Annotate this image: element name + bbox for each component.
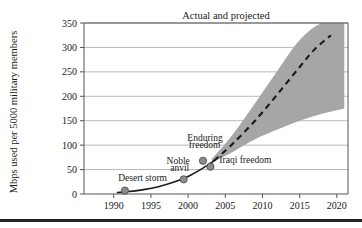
y-tick-label: 100 <box>62 140 77 151</box>
chart-canvas: Actual and projected Mbps used per 5000 … <box>0 0 362 228</box>
x-tick-label: 2020 <box>327 200 347 211</box>
data-point-marker <box>207 163 214 170</box>
annotation-label: Desert storm <box>118 173 167 183</box>
chart-figure: Actual and projected Mbps used per 5000 … <box>0 0 362 228</box>
annotation-label: Iraqi freedom <box>219 155 272 165</box>
y-axis-label: Mbps used per 5000 military members <box>8 31 19 193</box>
x-tick-label: 2015 <box>290 200 310 211</box>
x-tick-label: 1995 <box>141 200 161 211</box>
y-tick-label: 0 <box>72 189 77 200</box>
annotation-label: freedom <box>189 140 221 150</box>
y-tick-label: 300 <box>62 42 77 53</box>
x-tick-label: 2005 <box>215 200 235 211</box>
x-tick-label: 1990 <box>104 200 124 211</box>
y-tick-label: 150 <box>62 115 77 126</box>
annotation-label: anvil <box>170 163 189 173</box>
y-tick-label: 350 <box>62 18 77 29</box>
bottom-divider-rule <box>0 219 362 222</box>
chart-title: Actual and projected <box>182 10 270 21</box>
y-tick-label: 200 <box>62 91 77 102</box>
y-tick-label: 50 <box>67 164 77 175</box>
x-tick-label: 2000 <box>178 200 198 211</box>
y-tick-label: 250 <box>62 66 77 77</box>
data-point-marker <box>121 187 128 194</box>
data-point-marker <box>199 157 206 164</box>
data-point-marker <box>180 176 187 183</box>
x-tick-label: 2010 <box>252 200 272 211</box>
